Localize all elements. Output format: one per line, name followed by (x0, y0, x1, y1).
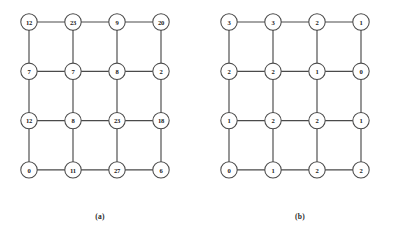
graph-node: 23 (109, 112, 125, 128)
graph-node: 1 (309, 63, 325, 79)
lattice-graph-a: 122392077821282318011276 (0, 0, 200, 200)
graph-node: 0 (21, 162, 37, 178)
lattice-graph-b: 3321221012210122 (200, 0, 400, 200)
graph-node: 2 (153, 63, 169, 79)
node-label: 1 (359, 117, 362, 124)
graph-edges (29, 22, 161, 170)
graph-node: 23 (65, 14, 81, 30)
graph-edges (229, 22, 361, 170)
graph-node: 20 (153, 14, 169, 30)
graph-node: 0 (353, 63, 369, 79)
graph-node: 8 (109, 63, 125, 79)
panel-a-caption: (a) (0, 212, 200, 221)
graph-nodes: 3321221012210122 (221, 14, 369, 178)
node-label: 1 (359, 19, 362, 26)
node-label: 23 (70, 19, 77, 26)
node-label: 1 (271, 167, 274, 174)
graph-node: 2 (221, 63, 237, 79)
graph-node: 7 (21, 63, 37, 79)
graph-node: 3 (221, 14, 237, 30)
graph-nodes: 122392077821282318011276 (21, 14, 169, 178)
graph-node: 12 (21, 14, 37, 30)
node-label: 27 (114, 167, 121, 174)
graph-panel-b: 3321221012210122 (b) (200, 0, 400, 238)
graph-panel-a: 122392077821282318011276 (a) (0, 0, 200, 238)
graph-node: 1 (353, 14, 369, 30)
graph-node: 1 (353, 112, 369, 128)
graph-node: 6 (153, 162, 169, 178)
node-label: 11 (70, 167, 76, 174)
graph-node: 27 (109, 162, 125, 178)
graph-node: 0 (221, 162, 237, 178)
graph-node: 11 (65, 162, 81, 178)
graph-node: 2 (353, 162, 369, 178)
graph-node: 3 (265, 14, 281, 30)
node-label: 1 (315, 68, 318, 75)
node-label: 20 (158, 19, 165, 26)
node-label: 18 (158, 117, 165, 124)
panel-b-caption: (b) (200, 212, 400, 221)
node-label: 1 (227, 117, 230, 124)
graph-node: 8 (65, 112, 81, 128)
graph-node: 2 (309, 14, 325, 30)
node-label: 12 (26, 19, 33, 26)
graph-node: 9 (109, 14, 125, 30)
node-label: 23 (114, 117, 121, 124)
graph-node: 2 (265, 112, 281, 128)
graph-node: 18 (153, 112, 169, 128)
graph-node: 1 (221, 112, 237, 128)
graph-node: 2 (309, 162, 325, 178)
graph-node: 1 (265, 162, 281, 178)
node-label: 12 (26, 117, 33, 124)
graph-node: 2 (265, 63, 281, 79)
figure-root: 122392077821282318011276 (a) 33212210122… (0, 0, 400, 238)
graph-node: 2 (309, 112, 325, 128)
graph-node: 12 (21, 112, 37, 128)
graph-node: 7 (65, 63, 81, 79)
